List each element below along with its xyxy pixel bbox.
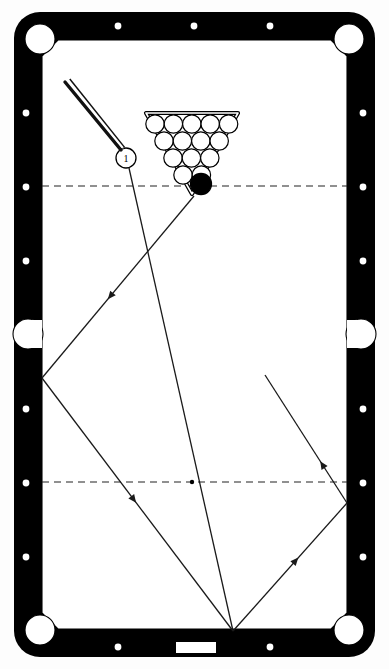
racked-ball-13 [174, 166, 192, 184]
left-side-pocket-throat [28, 320, 42, 348]
diagram-canvas: 1 [0, 0, 389, 669]
table-rail [14, 12, 375, 657]
diamond-top-2 [191, 23, 198, 30]
racked-ball-6 [155, 132, 173, 150]
object-ball-black[interactable] [191, 174, 212, 195]
racked-ball-1 [146, 115, 164, 133]
diamond-bottom-2 [267, 644, 274, 651]
pool-table-diagram: 1 [0, 0, 389, 669]
racked-ball-12 [201, 149, 219, 167]
diamond-right-4 [360, 406, 367, 413]
top-right-pocket[interactable] [334, 24, 364, 54]
diamond-left-5 [23, 480, 30, 487]
racked-ball-3 [183, 115, 201, 133]
diamond-top-3 [267, 23, 274, 30]
bottom-right-pocket[interactable] [334, 615, 364, 645]
diamond-right-6 [360, 554, 367, 561]
racked-ball-8 [192, 132, 210, 150]
right-side-pocket-throat [347, 320, 361, 348]
diamond-right-5 [360, 480, 367, 487]
top-left-pocket[interactable] [25, 24, 55, 54]
racked-ball-4 [201, 115, 219, 133]
diamond-left-4 [23, 406, 30, 413]
diamond-left-3 [23, 258, 30, 265]
diamond-bottom-1 [115, 644, 122, 651]
racked-ball-5 [219, 115, 237, 133]
diamond-left-1 [23, 110, 30, 117]
racked-ball-7 [173, 132, 191, 150]
cue-ball-label: 1 [124, 153, 129, 164]
diamond-right-2 [360, 184, 367, 191]
foot-spot [190, 480, 194, 484]
racked-ball-2 [164, 115, 182, 133]
racked-ball-10 [164, 149, 182, 167]
diamond-left-2 [23, 184, 30, 191]
racked-ball-11 [182, 149, 200, 167]
diamond-left-6 [23, 554, 30, 561]
bottom-left-pocket[interactable] [25, 615, 55, 645]
racked-ball-9 [210, 132, 228, 150]
rail-name-plate [176, 642, 216, 653]
diamond-top-1 [115, 23, 122, 30]
diamond-right-3 [360, 258, 367, 265]
diamond-right-1 [360, 110, 367, 117]
